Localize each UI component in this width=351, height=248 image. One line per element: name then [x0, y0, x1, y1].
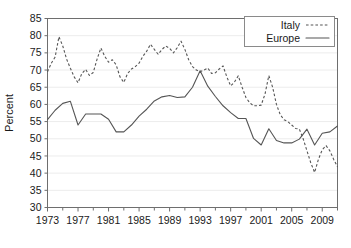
- y-tick-label: 50: [30, 132, 42, 144]
- y-tick-label: 30: [30, 201, 42, 213]
- legend-label-europe: Europe: [266, 32, 300, 44]
- x-tick-label: 1981: [97, 214, 121, 226]
- legend-label-italy: Italy: [281, 19, 301, 31]
- series-line-europe: [48, 71, 338, 145]
- gridlines: [48, 36, 338, 191]
- y-tick-label: 55: [30, 115, 42, 127]
- x-tick-label: 1993: [188, 214, 212, 226]
- y-tick-label: 70: [30, 64, 42, 76]
- y-axis-title: Percent: [3, 94, 15, 132]
- x-tick-label: 1997: [219, 214, 243, 226]
- y-tick-label: 45: [30, 150, 42, 162]
- x-tick-label: 2005: [280, 214, 304, 226]
- x-tick-label: 1989: [158, 214, 182, 226]
- y-tick-label: 75: [30, 46, 42, 58]
- y-tick-label: 35: [30, 184, 42, 196]
- line-chart: 303540455055606570758085 197319771981198…: [0, 0, 351, 248]
- y-axis-tick-labels: 303540455055606570758085: [30, 12, 42, 213]
- y-tick-label: 65: [30, 81, 42, 93]
- x-axis-ticks: [48, 208, 338, 212]
- x-tick-label: 1973: [36, 214, 60, 226]
- y-tick-label: 85: [30, 12, 42, 24]
- y-tick-label: 60: [30, 98, 42, 110]
- y-tick-label: 40: [30, 167, 42, 179]
- x-tick-label: 2009: [311, 214, 335, 226]
- x-axis-tick-labels: 1973197719811985198919931997200120052009: [36, 214, 334, 226]
- y-tick-label: 80: [30, 29, 42, 41]
- chart-legend: Italy Europe: [245, 17, 335, 47]
- chart-container: 303540455055606570758085 197319771981198…: [0, 0, 351, 248]
- x-tick-label: 2001: [250, 214, 274, 226]
- x-tick-label: 1985: [127, 214, 151, 226]
- x-tick-label: 1977: [66, 214, 90, 226]
